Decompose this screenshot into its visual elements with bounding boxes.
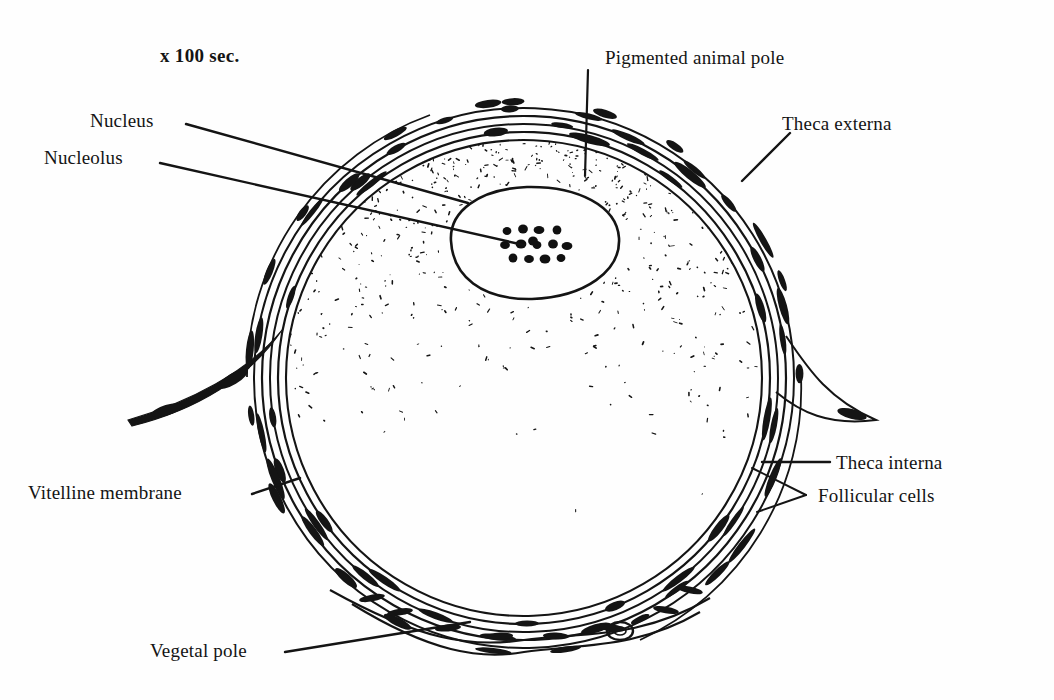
label-pigmented-animal-pole: Pigmented animal pole [605,47,784,69]
label-theca-interna: Theca interna [836,452,943,474]
scale-note: x 100 sec. [160,45,240,67]
right-flap-appendage [776,336,876,422]
label-theca-externa: Theca externa [782,113,892,135]
label-vitelline-membrane: Vitelline membrane [28,482,182,504]
follicle-wall-layers [247,108,801,648]
label-vegetal-pole: Vegetal pole [150,640,247,662]
oocyte-diagram [0,0,1054,700]
nucleoli-cluster [500,225,572,264]
label-follicular-cells: Follicular cells [818,485,935,507]
figure-canvas: x 100 sec. Pigmented animal pole Theca e… [0,0,1054,700]
label-nucleus: Nucleus [90,110,154,132]
label-nucleolus: Nucleolus [44,147,123,169]
wall-cell-nuclei [244,98,803,656]
label-leaders [160,70,830,652]
